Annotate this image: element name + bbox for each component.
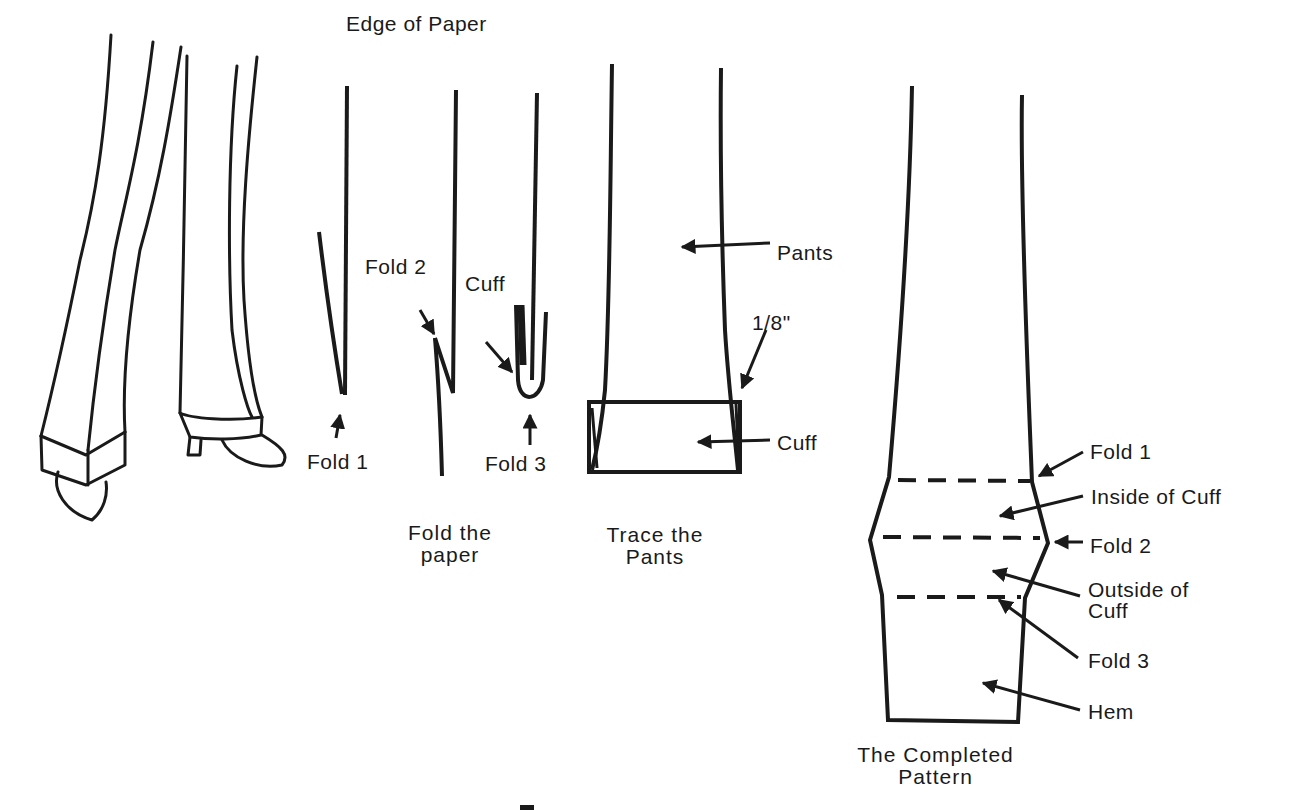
trace-the-pants-illustration (589, 64, 740, 472)
fold-paper-arrows (336, 310, 530, 445)
diagram-drawing (0, 0, 1302, 810)
label-fold-3: Fold 3 (485, 453, 546, 475)
caption-completed-pattern: The Completed Pattern (828, 744, 1043, 788)
pants-legs-illustration (41, 35, 285, 520)
label-fold-1: Fold 1 (307, 451, 368, 473)
caption-trace-line2: Pants (580, 546, 730, 568)
caption-fold-the-paper: Fold the paper (375, 522, 525, 566)
label-inside-of-cuff: Inside of Cuff (1091, 486, 1221, 508)
pants-cuff-pattern-diagram: Edge of Paper Fold 1 Fold 2 Cuff Fold 3 … (0, 0, 1302, 810)
label-edge-of-paper: Edge of Paper (346, 13, 487, 35)
label-pattern-fold-1: Fold 1 (1090, 441, 1151, 463)
label-pattern-fold-3: Fold 3 (1088, 650, 1149, 672)
caption-completed-line2: Pattern (828, 766, 1043, 788)
fold-the-paper-illustration (319, 86, 546, 476)
label-fold-2: Fold 2 (365, 256, 426, 278)
caption-fold-line1: Fold the (375, 522, 525, 544)
caption-completed-line1: The Completed (828, 744, 1043, 766)
caption-trace-the-pants: Trace the Pants (580, 524, 730, 568)
label-outside-of-cuff-line2: Cuff (1088, 600, 1128, 622)
label-pattern-fold-2: Fold 2 (1090, 535, 1151, 557)
label-one-eighth-inch: 1/8" (752, 312, 791, 334)
caption-fold-line2: paper (375, 544, 525, 566)
caption-trace-line1: Trace the (580, 524, 730, 546)
label-hem: Hem (1088, 701, 1134, 723)
label-cuff-paper: Cuff (465, 273, 505, 295)
label-pants: Pants (777, 242, 833, 264)
pattern-fold-lines (883, 480, 1040, 597)
figure-caption-fragment (520, 805, 534, 810)
label-outside-of-cuff-line1: Outside of (1088, 579, 1189, 601)
label-cuff-trace: Cuff (777, 432, 817, 454)
completed-pattern-illustration (870, 86, 1048, 722)
